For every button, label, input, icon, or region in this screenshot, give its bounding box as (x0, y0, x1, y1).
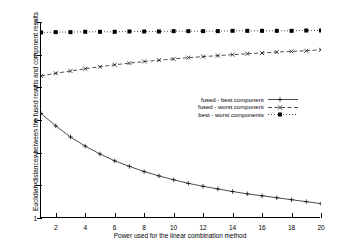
data-point (172, 29, 176, 33)
data-point (275, 29, 279, 33)
data-point (290, 29, 294, 33)
data-point (201, 184, 206, 189)
legend-label: fused - worst component (198, 104, 264, 110)
legend-item: best - worst components (198, 111, 298, 119)
x-tick (174, 213, 175, 218)
series-line (41, 50, 321, 76)
data-point (98, 152, 103, 157)
data-point (142, 169, 147, 174)
data-point (230, 189, 235, 194)
data-point (245, 192, 250, 197)
legend: fused - best component fused - worst com… (198, 96, 298, 119)
data-point (289, 197, 294, 202)
legend-label: fused - best component (201, 97, 264, 103)
data-point (245, 29, 249, 33)
legend-label: best - worst components (198, 112, 263, 118)
x-tick (144, 213, 145, 218)
plot-area: 12345672468101214161820 (40, 22, 320, 218)
data-point (112, 159, 117, 164)
x-tick (262, 213, 263, 218)
x-tick (85, 213, 86, 218)
legend-swatch-square (268, 111, 298, 118)
y-axis-title: Euclidian distances between the fused re… (32, 4, 39, 219)
data-point (142, 29, 146, 33)
data-point (54, 30, 58, 34)
data-point (68, 30, 72, 34)
x-tick (292, 213, 293, 218)
data-point (274, 195, 279, 200)
data-point (260, 193, 265, 198)
data-point (216, 187, 221, 192)
series-line (41, 113, 321, 203)
data-point (157, 174, 162, 179)
data-point (83, 30, 87, 34)
legend-swatch-x (268, 104, 298, 111)
chart-canvas (41, 22, 321, 218)
legend-swatch-plus (268, 96, 298, 103)
x-tick (233, 213, 234, 218)
series-line (41, 30, 321, 32)
x-axis-title: Power used for the linear combination me… (40, 232, 320, 239)
data-point (83, 144, 88, 149)
data-point (186, 29, 190, 33)
data-point (127, 29, 131, 33)
x-tick (321, 213, 322, 218)
data-point (113, 30, 117, 34)
data-point (171, 177, 176, 182)
data-point (98, 30, 102, 34)
data-point (216, 29, 220, 33)
x-tick (115, 213, 116, 218)
data-point (260, 29, 264, 33)
data-point (127, 164, 132, 169)
data-point (319, 201, 321, 206)
data-point (319, 28, 321, 32)
data-point (304, 199, 309, 204)
data-point (186, 181, 191, 186)
figure: 12345672468101214161820 Power used for t… (0, 0, 340, 250)
x-tick (203, 213, 204, 218)
data-point (41, 30, 43, 34)
data-point (201, 29, 205, 33)
legend-item: fused - best component (198, 96, 298, 104)
data-point (157, 29, 161, 33)
data-point (231, 29, 235, 33)
data-point (304, 28, 308, 32)
legend-item: fused - worst component (198, 104, 298, 112)
x-tick (56, 213, 57, 218)
